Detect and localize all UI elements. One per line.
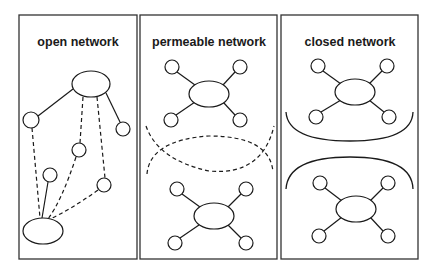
cluster-bottom: [312, 176, 395, 243]
panel-title-open: open network: [37, 35, 118, 49]
permeable-boundary: [146, 126, 274, 174]
link-solid: [106, 93, 120, 122]
hub-node: [23, 218, 63, 244]
panel-border: [281, 15, 418, 259]
node: [116, 122, 130, 136]
link-solid: [42, 182, 48, 218]
node: [23, 112, 39, 128]
dashed-links: [32, 97, 105, 219]
panel-permeable-network: permeable network: [140, 15, 277, 259]
network-types-diagram: open network perme: [0, 0, 435, 273]
panel-open-network: open network: [19, 15, 137, 259]
hub-node: [72, 71, 110, 97]
link-solid: [38, 89, 73, 116]
cluster-bottom: [168, 182, 253, 250]
panel-title-closed: closed network: [305, 35, 396, 49]
node: [72, 143, 86, 157]
cluster-top: [164, 60, 247, 127]
cluster-top: [309, 59, 396, 124]
panel-title-permeable: permeable network: [152, 35, 266, 49]
node: [43, 168, 57, 182]
panel-closed-network: closed network: [281, 15, 418, 259]
node: [97, 178, 111, 192]
